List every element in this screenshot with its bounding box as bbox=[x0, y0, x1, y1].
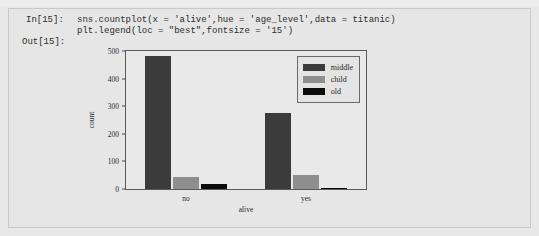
x-axis-label: alive bbox=[239, 205, 254, 214]
bar-yes-child bbox=[293, 175, 319, 189]
legend-label: middle bbox=[331, 63, 353, 72]
input-prompt: In[15]: bbox=[26, 15, 64, 25]
legend-item-child[interactable]: child bbox=[303, 74, 353, 85]
bar-no-child bbox=[173, 177, 199, 189]
notebook-cell: In[15]: sns.countplot(x = 'alive',hue = … bbox=[8, 8, 531, 228]
y-tick-label: 200 bbox=[108, 129, 119, 138]
chart-legend[interactable]: middlechildold bbox=[297, 56, 360, 103]
bar-no-old bbox=[201, 184, 227, 189]
legend-item-old[interactable]: old bbox=[303, 86, 353, 97]
legend-item-middle[interactable]: middle bbox=[303, 62, 353, 73]
bar-yes-old bbox=[321, 188, 347, 189]
legend-label: child bbox=[331, 75, 347, 84]
output-prompt: Out[15]: bbox=[22, 37, 65, 47]
code-line[interactable]: sns.countplot(x = 'alive',hue = 'age_lev… bbox=[77, 15, 396, 25]
bar-yes-middle bbox=[265, 113, 291, 189]
y-tick-label: 400 bbox=[108, 74, 119, 83]
code-line[interactable]: plt.legend(loc = "best",fontsize = '15') bbox=[77, 26, 293, 36]
y-tick-label: 300 bbox=[108, 102, 119, 111]
y-tick-label: 0 bbox=[115, 185, 119, 194]
bar-no-middle bbox=[145, 56, 171, 189]
plot-axes: middlechildold bbox=[125, 50, 367, 190]
legend-swatch-icon bbox=[303, 64, 325, 71]
x-tick-label: no bbox=[182, 194, 190, 203]
countplot-figure: 0100200300400500 count middlechildold al… bbox=[87, 45, 381, 221]
y-tick-label: 500 bbox=[108, 47, 119, 56]
cut-off-text: ·· ·· · ·· ······· bbox=[168, 0, 260, 3]
cut-off-text-strip: ·· ·· · ·· ······· bbox=[0, 0, 539, 7]
legend-label: old bbox=[331, 87, 341, 96]
y-axis-label: count bbox=[87, 112, 96, 129]
legend-swatch-icon bbox=[303, 88, 325, 95]
legend-swatch-icon bbox=[303, 76, 325, 83]
x-tick-label: yes bbox=[301, 194, 311, 203]
y-tick-label: 100 bbox=[108, 157, 119, 166]
